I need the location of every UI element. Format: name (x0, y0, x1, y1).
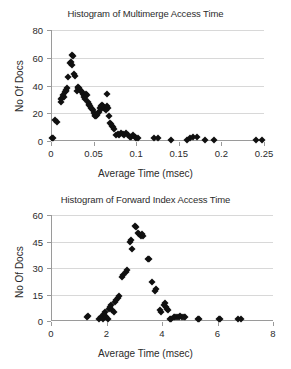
x-tick-label: 8 (270, 328, 275, 339)
x-tick-label: 0 (48, 148, 53, 159)
y-tick-mark (47, 295, 51, 296)
chart-forward-index: Histogram of Forward Index Access Time N… (0, 188, 291, 369)
y-tick-label: 15 (9, 289, 43, 300)
y-tick-label: 45 (9, 236, 43, 247)
y-tick-label: 0 (9, 136, 43, 147)
y-tick-mark (47, 58, 51, 59)
data-point (210, 136, 217, 143)
x-tick-label: 6 (215, 328, 220, 339)
chart-multimerge: Histogram of Multimerge Access Time No O… (0, 0, 291, 188)
x-tick-label: 0.25 (255, 148, 274, 159)
data-point (110, 309, 117, 316)
gridline-y (52, 268, 273, 269)
x-tick-mark (264, 142, 265, 146)
x-tick-mark (94, 142, 95, 146)
gridline-y (52, 30, 264, 31)
plot-area-forward (51, 215, 273, 321)
plot-area-multimerge (51, 30, 264, 141)
y-tick-label: 80 (9, 25, 43, 36)
y-tick-mark (47, 242, 51, 243)
y-tick-label: 40 (9, 80, 43, 91)
x-tick-mark (107, 322, 108, 326)
x-tick-mark (136, 142, 137, 146)
x-tick-label: 0 (48, 328, 53, 339)
x-tick-mark (51, 322, 52, 326)
chart-title-multimerge: Histogram of Multimerge Access Time (0, 8, 291, 19)
x-tick-label: 2 (104, 328, 109, 339)
x-tick-mark (162, 322, 163, 326)
y-tick-label: 60 (9, 52, 43, 63)
gridline-y (52, 86, 264, 87)
x-axis-title-multimerge: Average Time (msec) (0, 168, 291, 179)
x-tick-mark (51, 142, 52, 146)
data-point (168, 136, 175, 143)
x-tick-mark (273, 322, 274, 326)
y-tick-mark (47, 86, 51, 87)
x-axis-title-forward: Average Time (msec) (0, 348, 291, 359)
x-tick-mark (218, 322, 219, 326)
data-point (129, 245, 136, 252)
y-tick-mark (47, 215, 51, 216)
y-tick-label: 60 (9, 210, 43, 221)
data-point (154, 135, 161, 142)
gridline-y (52, 113, 264, 114)
y-tick-label: 0 (9, 316, 43, 327)
x-tick-label: 4 (159, 328, 164, 339)
gridline-y (52, 242, 273, 243)
data-point (164, 307, 171, 314)
data-point (202, 136, 209, 143)
x-tick-label: 0.2 (215, 148, 228, 159)
y-tick-mark (47, 30, 51, 31)
data-point (54, 118, 61, 125)
x-tick-label: 0.1 (130, 148, 143, 159)
chart-title-forward: Histogram of Forward Index Access Time (0, 194, 291, 205)
x-tick-label: 0.15 (170, 148, 189, 159)
x-tick-label: 0.05 (84, 148, 103, 159)
data-point (103, 90, 110, 97)
y-tick-mark (47, 268, 51, 269)
y-tick-mark (47, 113, 51, 114)
data-point (193, 133, 200, 140)
gridline-y (52, 58, 264, 59)
gridline-y (52, 295, 273, 296)
x-tick-mark (221, 142, 222, 146)
data-point (104, 316, 111, 323)
gridline-y (52, 215, 273, 216)
x-tick-mark (179, 142, 180, 146)
y-tick-label: 30 (9, 263, 43, 274)
y-tick-label: 20 (9, 108, 43, 119)
